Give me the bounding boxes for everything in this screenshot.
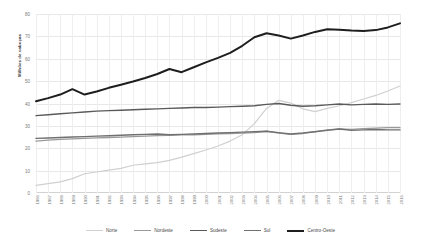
series-line	[36, 104, 400, 116]
y-tick-label: 40	[25, 101, 30, 106]
legend-item[interactable]: Norte	[86, 228, 117, 233]
legend-label: Sul	[264, 228, 271, 233]
x-tick-label: 2008	[301, 195, 306, 205]
x-tick-label: 2009	[314, 195, 319, 205]
x-tick-label: 1986	[35, 195, 40, 205]
legend-swatch-icon	[86, 230, 103, 231]
x-tick-label: 1999	[192, 195, 197, 205]
y-tick-label: 10	[25, 168, 30, 173]
legend-swatch-icon	[244, 230, 261, 231]
x-tick-label: 1995	[144, 195, 149, 205]
legend-item[interactable]: Nordeste	[134, 228, 173, 233]
x-tick-label: 2006	[277, 195, 282, 205]
x-tick-label: 2007	[289, 195, 294, 205]
y-tick-label: 30	[25, 123, 30, 128]
legend-label: Nordeste	[154, 228, 173, 233]
y-tick-label: 50	[25, 79, 30, 84]
plot-area	[36, 14, 400, 193]
series-lines	[36, 14, 400, 193]
x-axis-tick-labels: 1986198719881989199019911992199319941995…	[36, 195, 400, 225]
x-tick-label: 2003	[241, 195, 246, 205]
x-tick-label: 2013	[362, 195, 367, 205]
legend-label: Sudeste	[210, 228, 227, 233]
y-tick-label: 0	[27, 191, 30, 196]
legend-swatch-icon	[287, 230, 304, 232]
x-tick-label: 1987	[47, 195, 52, 205]
x-tick-label: 2015	[386, 195, 391, 205]
x-tick-label: 2010	[326, 195, 331, 205]
x-tick-label: 1998	[180, 195, 185, 205]
x-tick-label: 1994	[132, 195, 137, 205]
series-line	[36, 129, 400, 138]
x-tick-label: 2000	[204, 195, 209, 205]
x-tick-label: 1990	[83, 195, 88, 205]
x-tick-label: 2001	[217, 195, 222, 205]
x-tick-label: 2016	[399, 195, 404, 205]
series-line	[36, 23, 400, 101]
chart-legend: NorteNordesteSudesteSulCentro-Oeste	[0, 228, 421, 233]
legend-item[interactable]: Sudeste	[190, 228, 227, 233]
x-tick-label: 2014	[374, 195, 379, 205]
y-tick-label: 60	[25, 56, 30, 61]
x-tick-label: 2002	[229, 195, 234, 205]
x-tick-label: 1996	[156, 195, 161, 205]
legend-item[interactable]: Centro-Oeste	[287, 228, 335, 233]
x-tick-label: 1991	[95, 195, 100, 205]
legend-label: Norte	[106, 228, 117, 233]
x-tick-label: 1989	[71, 195, 76, 205]
x-tick-label: 2011	[338, 195, 343, 204]
legend-swatch-icon	[134, 230, 151, 231]
y-tick-label: 20	[25, 146, 30, 151]
x-tick-label: 2012	[350, 195, 355, 205]
x-tick-label: 1992	[107, 195, 112, 205]
y-axis-tick-labels: 01020304050607080	[0, 14, 33, 193]
x-tick-label: 1993	[119, 195, 124, 205]
x-tick-label: 1988	[59, 195, 64, 205]
line-chart: Milhões de cabeças 01020304050607080 198…	[0, 0, 421, 246]
y-tick-label: 80	[25, 12, 30, 17]
y-tick-label: 70	[25, 34, 30, 39]
x-tick-label: 1997	[168, 195, 173, 205]
legend-swatch-icon	[190, 230, 207, 231]
x-tick-label: 2005	[265, 195, 270, 205]
legend-item[interactable]: Sul	[244, 228, 271, 233]
legend-label: Centro-Oeste	[307, 228, 335, 233]
x-tick-label: 2004	[253, 195, 258, 205]
